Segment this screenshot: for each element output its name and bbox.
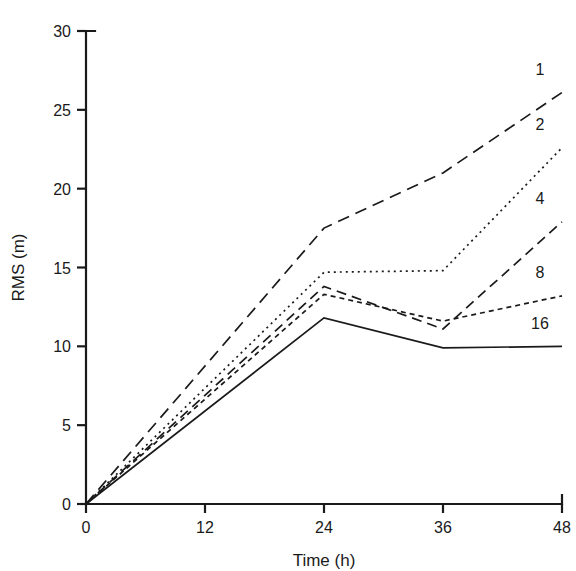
axis-frame xyxy=(86,31,562,504)
chart-container: 051015202530012243648 124816 Time (h)RMS… xyxy=(0,0,576,571)
series-label-1: 1 xyxy=(536,61,545,78)
y-tick-label: 20 xyxy=(53,181,71,198)
y-tick-label: 5 xyxy=(62,417,71,434)
data-series-line-2 xyxy=(86,148,562,504)
x-tick-label: 12 xyxy=(196,519,214,536)
axes-group: 051015202530012243648 xyxy=(53,23,571,536)
data-series-line-4 xyxy=(86,222,562,504)
axis-titles-group: Time (h)RMS (m) xyxy=(9,234,355,570)
series-label-4: 4 xyxy=(536,190,545,207)
data-series-line-16 xyxy=(86,318,562,504)
y-tick-label: 0 xyxy=(62,496,71,513)
y-tick-label: 10 xyxy=(53,338,71,355)
data-series-line-8 xyxy=(86,294,562,504)
line-chart: 051015202530012243648 124816 Time (h)RMS… xyxy=(0,0,576,571)
x-tick-label: 0 xyxy=(82,519,91,536)
y-tick-label: 15 xyxy=(53,260,71,277)
y-axis-title: RMS (m) xyxy=(9,234,28,302)
series-label-2: 2 xyxy=(536,116,545,133)
data-series-line-1 xyxy=(86,92,562,504)
x-tick-label: 24 xyxy=(315,519,333,536)
x-axis-title: Time (h) xyxy=(293,551,356,570)
series-labels-group: 124816 xyxy=(531,61,549,332)
data-series-group xyxy=(86,92,562,504)
y-tick-label: 25 xyxy=(53,102,71,119)
x-tick-label: 36 xyxy=(434,519,452,536)
series-label-16: 16 xyxy=(531,315,549,332)
x-tick-label: 48 xyxy=(553,519,571,536)
y-tick-label: 30 xyxy=(53,23,71,40)
series-label-8: 8 xyxy=(536,264,545,281)
